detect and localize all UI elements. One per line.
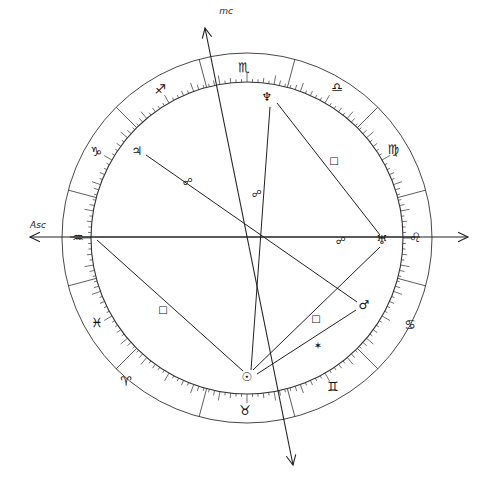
- sign-boundary-line: [357, 348, 378, 369]
- degree-tick: [209, 84, 210, 87]
- sign-boundary-line: [287, 59, 295, 87]
- degree-tick: [343, 361, 345, 363]
- degree-tick: [163, 370, 165, 373]
- degree-tick: [390, 173, 395, 175]
- degree-tick: [172, 376, 173, 379]
- jupiter-mars-opposition-line: [146, 155, 357, 302]
- degree-tick: [152, 364, 155, 368]
- degree-tick: [305, 383, 306, 386]
- degree-tick: [90, 270, 95, 271]
- planet-uranus-icon: ♅: [377, 233, 388, 247]
- degree-tick: [359, 128, 361, 130]
- planet-mars-icon: ♂: [359, 298, 370, 312]
- degree-tick: [209, 389, 210, 392]
- degree-tick: [274, 76, 276, 85]
- degree-tick: [107, 163, 110, 164]
- sign-virgo-icon: ♍: [387, 142, 399, 157]
- degree-tick: [121, 338, 128, 344]
- degree-tick: [100, 296, 103, 297]
- mars-sun-sextile-line: [257, 310, 356, 374]
- degree-tick: [279, 81, 280, 86]
- sign-boundary-line: [398, 190, 426, 198]
- degree-tick: [359, 346, 361, 348]
- aquarius-sun-square-symbol-icon: □: [158, 304, 167, 315]
- degree-tick: [363, 342, 367, 345]
- degree-tick: [137, 350, 139, 352]
- planet-jupiter-icon: ♃: [132, 144, 143, 158]
- degree-tick: [373, 143, 377, 146]
- degree-tick: [370, 140, 372, 142]
- degree-tick: [94, 194, 97, 195]
- degree-tick: [351, 118, 354, 122]
- degree-tick: [334, 106, 336, 108]
- degree-tick: [172, 98, 173, 101]
- degree-tick: [115, 149, 117, 151]
- degree-tick: [152, 108, 155, 112]
- degree-tick: [177, 95, 178, 98]
- degree-tick: [343, 113, 345, 115]
- degree-tick: [90, 205, 95, 206]
- mars-sun-sextile-symbol-icon: ✶: [314, 340, 322, 351]
- degree-tick: [320, 98, 321, 101]
- degree-tick: [133, 128, 135, 130]
- degree-tick: [290, 85, 291, 88]
- degree-tick: [402, 254, 407, 255]
- degree-tick: [197, 386, 199, 391]
- planet-neptune-icon: ♆: [262, 90, 273, 104]
- degree-tick: [117, 143, 121, 146]
- degree-tick: [315, 378, 316, 381]
- degree-tick: [165, 373, 170, 381]
- neptune-uranus-square-line: [277, 103, 380, 235]
- degree-tick: [330, 370, 332, 373]
- sign-sagittarius-icon: ♐: [154, 82, 166, 97]
- sign-boundary-line: [398, 278, 426, 286]
- degree-tick: [290, 388, 291, 391]
- degree-tick: [376, 325, 378, 327]
- degree-tick: [158, 367, 160, 369]
- degree-tick: [182, 381, 184, 386]
- degree-tick: [347, 112, 353, 119]
- degree-tick: [141, 358, 147, 365]
- degree-tick: [197, 85, 199, 90]
- degree-tick: [379, 154, 382, 156]
- degree-tick: [295, 85, 297, 90]
- degree-tick: [94, 281, 97, 282]
- degree-tick: [94, 286, 99, 288]
- degree-tick: [263, 393, 264, 398]
- sign-capricorn-icon: ♑: [90, 144, 102, 159]
- sign-boundary-line: [68, 278, 96, 286]
- sign-scorpio-icon: ♏: [238, 60, 250, 75]
- degree-tick: [310, 381, 312, 386]
- sign-boundary-line: [287, 389, 295, 417]
- astrology-chart: ♏♎♍♌♋♊♉♈♓♒♑♐ ☍☍□□✶□☍ ♆♃♅♂☉ Asc mc: [0, 0, 496, 490]
- degree-tick: [141, 112, 147, 119]
- degree-tick: [104, 306, 107, 307]
- degree-tick: [85, 265, 94, 267]
- jupiter-mars-opposition-symbol-icon: ☍: [183, 176, 193, 187]
- degree-tick: [400, 270, 405, 271]
- degree-tick: [379, 321, 382, 323]
- degree-tick: [104, 168, 107, 169]
- degree-tick: [230, 393, 231, 398]
- neptune-uranus-square-symbol-icon: □: [329, 155, 338, 166]
- degree-tick: [107, 311, 110, 312]
- degree-tick: [334, 367, 336, 369]
- degree-tick: [355, 350, 357, 352]
- sign-boundary-line: [68, 190, 96, 198]
- degree-tick: [92, 182, 100, 185]
- degree-tick: [104, 316, 112, 321]
- degree-tick: [104, 156, 112, 161]
- degree-tick: [115, 325, 117, 327]
- degree-tick: [191, 385, 194, 393]
- ic-axis: [249, 247, 293, 466]
- degree-tick: [320, 376, 321, 379]
- degree-tick: [100, 178, 103, 179]
- degree-tick: [203, 388, 204, 391]
- degree-tick: [100, 301, 105, 303]
- degree-tick: [191, 83, 194, 91]
- degree-tick: [139, 118, 142, 122]
- degree-tick: [112, 154, 115, 156]
- degree-tick: [158, 106, 160, 108]
- degree-tick: [87, 221, 92, 222]
- uranus-opposition-marker-icon: ☍: [336, 235, 346, 246]
